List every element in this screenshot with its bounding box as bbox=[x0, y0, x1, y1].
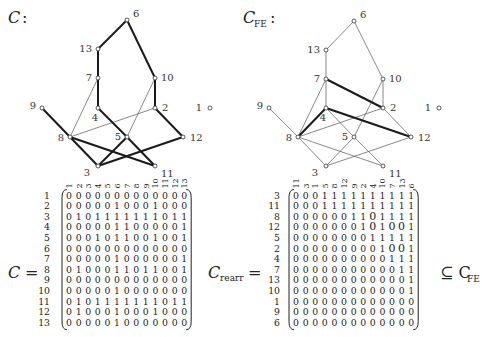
matrix-cell: 0 bbox=[181, 243, 187, 254]
matrix-cell: 0 bbox=[172, 306, 178, 317]
node-label: 13 bbox=[307, 44, 320, 55]
matrix-cell: 1 bbox=[331, 190, 337, 201]
matrix-cell: 0 bbox=[322, 274, 328, 285]
node-label: 3 bbox=[312, 167, 318, 178]
edge-thin bbox=[298, 79, 326, 137]
matrix-cell: 1 bbox=[152, 264, 158, 275]
matrix-cell: 0 bbox=[66, 274, 72, 285]
col-header: 3 bbox=[84, 183, 93, 188]
edge-thin bbox=[326, 137, 354, 166]
matrix-cell: 0 bbox=[351, 264, 357, 275]
matrix-cell: 0 bbox=[303, 274, 309, 285]
matrix-cell: 0 bbox=[172, 221, 178, 232]
node-8 bbox=[296, 135, 300, 139]
matrix-cell: 0 bbox=[293, 274, 299, 285]
matrix-cell: 0 bbox=[370, 285, 376, 296]
matrix-cell: 1 bbox=[408, 264, 414, 275]
matrix-cell: 0 bbox=[312, 232, 318, 243]
row-header: 1 bbox=[44, 190, 50, 201]
matrix-cell: 0 bbox=[322, 296, 328, 307]
matrix-cell: 0 bbox=[331, 264, 337, 275]
matrix-cell: 0 bbox=[85, 296, 91, 307]
node-12 bbox=[409, 135, 413, 139]
matrix-cell: 1 bbox=[143, 296, 149, 307]
matrix-cell: 0 bbox=[360, 274, 366, 285]
matrix-cell: 0 bbox=[370, 274, 376, 285]
node-12 bbox=[181, 135, 185, 139]
col-header: 10 bbox=[151, 178, 160, 188]
matrix-cell: 0 bbox=[172, 317, 178, 328]
row-header: 12 bbox=[38, 306, 50, 317]
matrix-cell: 0 bbox=[85, 232, 91, 243]
matrix-cell: 0 bbox=[133, 243, 139, 254]
matrix-cell: 0 bbox=[172, 274, 178, 285]
matrix-cell: 0 bbox=[66, 243, 72, 254]
matrix-cell: 0 bbox=[322, 221, 328, 232]
matrix-cell: 0 bbox=[303, 285, 309, 296]
matrix-cell: 0 bbox=[162, 190, 168, 201]
matrix-cell: 0 bbox=[303, 243, 309, 254]
matrix-cell: 0 bbox=[143, 243, 149, 254]
matrix-cell: 0 bbox=[303, 296, 309, 307]
edge-thin bbox=[326, 137, 411, 166]
node-label: 9 bbox=[30, 100, 36, 111]
matrix-cell: 1 bbox=[379, 232, 385, 243]
node-label: 11 bbox=[161, 168, 174, 179]
left-hasse-diagram: 61371094218512311 bbox=[30, 8, 212, 179]
matrix-cell: 0 bbox=[322, 285, 328, 296]
matrix-cell: 0 bbox=[370, 306, 376, 317]
matrix-cell: 1 bbox=[408, 243, 414, 254]
node-1 bbox=[437, 106, 441, 110]
matrix-cell: 0 bbox=[379, 296, 385, 307]
matrix-cell: 1 bbox=[124, 232, 130, 243]
matrix-cell: 0 bbox=[331, 274, 337, 285]
matrix-cell: 0 bbox=[162, 306, 168, 317]
matrix-cell: 0 bbox=[312, 253, 318, 264]
matrix-cell: 1 bbox=[114, 285, 120, 296]
matrix-cell: 0 bbox=[399, 285, 405, 296]
matrix-cell: 0 bbox=[133, 200, 139, 211]
matrix-cell: 0 bbox=[181, 200, 187, 211]
node-label: 12 bbox=[418, 132, 431, 143]
node-label: 7 bbox=[314, 73, 320, 84]
node-label: 10 bbox=[161, 72, 174, 83]
col-header: 6 bbox=[407, 183, 416, 188]
matrix-cell: 1 bbox=[360, 221, 366, 232]
matrix-cell: 0 bbox=[303, 211, 309, 222]
matrix-cell: 0 bbox=[341, 253, 347, 264]
col-header: 12 bbox=[171, 178, 180, 188]
col-header: 4 bbox=[94, 183, 103, 188]
node-label: 1 bbox=[196, 102, 202, 113]
matrix-cell: 0 bbox=[95, 317, 101, 328]
matrix-cell: 0 bbox=[293, 306, 299, 317]
matrix-cell: 0 bbox=[408, 317, 414, 328]
edge-thin bbox=[354, 79, 383, 137]
matrix-cell: 0 bbox=[341, 221, 347, 232]
matrix-cell: 0 bbox=[322, 317, 328, 328]
col-header: 2 bbox=[359, 183, 368, 188]
matrix-cell: 0 bbox=[124, 200, 130, 211]
matrix-cell: 0 bbox=[312, 296, 318, 307]
matrix-cell: 1 bbox=[124, 211, 130, 222]
matrix-cell: 0 bbox=[76, 274, 82, 285]
matrix-cell: 0 bbox=[85, 264, 91, 275]
matrix-cell: 0 bbox=[152, 190, 158, 201]
node-2 bbox=[153, 106, 157, 110]
matrix-cell: 1 bbox=[399, 190, 405, 201]
matrix-cell: 0 bbox=[303, 232, 309, 243]
matrix-cell: 1 bbox=[408, 190, 414, 201]
matrix-cell: 0 bbox=[303, 190, 309, 201]
matrix-cell: 1 bbox=[104, 211, 110, 222]
matrix-cell: 1 bbox=[181, 211, 187, 222]
matrix-cell: 0 bbox=[85, 274, 91, 285]
matrix-cell: 0 bbox=[85, 221, 91, 232]
matrix-cell: 0 bbox=[293, 285, 299, 296]
matrix-cell: 1 bbox=[114, 264, 120, 275]
matrix-cell: 0 bbox=[312, 317, 318, 328]
matrix-cell: 0 bbox=[76, 200, 82, 211]
node-10 bbox=[381, 77, 385, 81]
node-2 bbox=[381, 106, 385, 110]
col-header: 12 bbox=[340, 178, 349, 188]
matrix-cell: 0 bbox=[133, 253, 139, 264]
matrix-cell: 0 bbox=[76, 221, 82, 232]
